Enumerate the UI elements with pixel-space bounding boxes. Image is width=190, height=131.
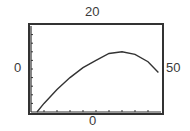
plot-frame [29,24,163,114]
plot-area [0,0,190,131]
function-curve [37,52,158,112]
axis-ticks [31,35,148,112]
